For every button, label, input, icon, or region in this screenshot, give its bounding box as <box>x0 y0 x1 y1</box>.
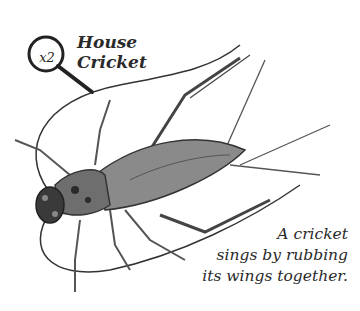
cricket-illustration: x2 House Cricket A cricket sings by rubb… <box>0 0 360 311</box>
figure-caption: A cricket sings by rubbing its wings tog… <box>202 224 348 287</box>
head <box>36 187 64 223</box>
figure-title: House Cricket <box>77 32 147 72</box>
magnification-label: x2 <box>32 50 62 65</box>
cerci <box>225 60 330 175</box>
wings <box>95 140 245 210</box>
